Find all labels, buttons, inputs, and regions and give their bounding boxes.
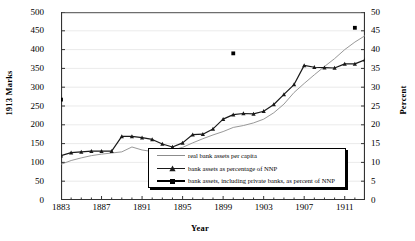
y-axis-right-title: Percent bbox=[398, 69, 408, 131]
y-axis-left-tick-label: 300 bbox=[18, 83, 44, 92]
y-axis-left-tick-label: 50 bbox=[18, 177, 44, 186]
x-axis-tick-label: 1887 bbox=[82, 203, 122, 212]
legend-item: bank assets as percentage of NNP bbox=[149, 163, 345, 175]
legend-swatch-triangle-icon bbox=[154, 163, 188, 173]
y-axis-left-tick-label: 450 bbox=[18, 26, 44, 35]
y-axis-left-tick-label: 200 bbox=[18, 120, 44, 129]
chart-figure: 1913 Marks Percent Year 0501001502002503… bbox=[0, 0, 415, 241]
x-axis-tick-label: 1895 bbox=[163, 203, 203, 212]
x-axis-tick-label: 1883 bbox=[41, 203, 81, 212]
x-axis-tick-label: 1899 bbox=[203, 203, 243, 212]
chart-legend: real bank assets per capita bank assets … bbox=[148, 148, 346, 188]
x-axis-ticks: 18831887189118951899190319071911 bbox=[0, 203, 415, 219]
y-axis-left-tick-label: 250 bbox=[18, 102, 44, 111]
y-axis-left-title: 1913 Marks bbox=[4, 57, 14, 129]
legend-label: bank assets as percentage of NNP bbox=[188, 165, 277, 172]
x-axis-tick-label: 1891 bbox=[122, 203, 162, 212]
x-axis-tick-label: 1911 bbox=[325, 203, 365, 212]
y-axis-left-tick-label: 400 bbox=[18, 45, 44, 54]
x-axis-title: Year bbox=[150, 223, 250, 233]
y-axis-right-tick-label: 35 bbox=[371, 64, 397, 73]
y-axis-left-tick-label: 500 bbox=[18, 8, 44, 17]
legend-swatch-line-icon bbox=[154, 151, 188, 161]
y-axis-left-tick-label: 350 bbox=[18, 64, 44, 73]
y-axis-right-tick-label: 25 bbox=[371, 102, 397, 111]
y-axis-right-tick-label: 20 bbox=[371, 120, 397, 129]
x-axis-tick-label: 1903 bbox=[244, 203, 284, 212]
legend-item: bank assets, including private banks, as… bbox=[149, 175, 345, 187]
y-axis-right-tick-label: 45 bbox=[371, 26, 397, 35]
y-axis-left-tick-label: 150 bbox=[18, 139, 44, 148]
y-axis-left-tick-label: 100 bbox=[18, 158, 44, 167]
legend-swatch-square-icon bbox=[154, 176, 188, 186]
y-axis-right-tick-label: 50 bbox=[371, 8, 397, 17]
y-axis-right-tick-label: 10 bbox=[371, 158, 397, 167]
y-axis-right-tick-label: 15 bbox=[371, 139, 397, 148]
y-axis-right-tick-label: 5 bbox=[371, 177, 397, 186]
legend-item: real bank assets per capita bbox=[149, 150, 345, 162]
y-axis-right-tick-label: 30 bbox=[371, 83, 397, 92]
legend-label: bank assets, including private banks, as… bbox=[188, 177, 335, 184]
y-axis-right-tick-label: 40 bbox=[371, 45, 397, 54]
legend-label: real bank assets per capita bbox=[188, 152, 257, 159]
x-axis-tick-label: 1907 bbox=[284, 203, 324, 212]
